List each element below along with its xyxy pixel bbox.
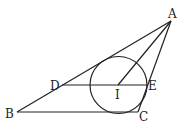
label-b: B bbox=[5, 107, 14, 121]
label-e: E bbox=[148, 79, 157, 93]
label-c: C bbox=[139, 110, 148, 124]
label-i: I bbox=[115, 88, 120, 102]
segment-ai bbox=[118, 21, 171, 85]
label-d: D bbox=[50, 79, 60, 93]
geometry-diagram: A B C D E I bbox=[0, 0, 188, 127]
segment-ca bbox=[138, 21, 171, 112]
label-a: A bbox=[167, 7, 177, 21]
